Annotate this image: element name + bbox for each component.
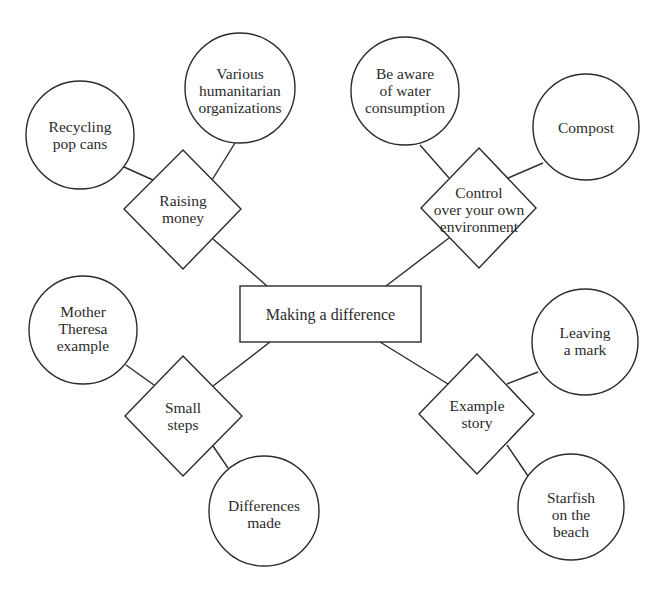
branch-diamond-raising-money (124, 150, 241, 269)
mind-map-diagram: Making a difference Raising money Contro… (0, 0, 667, 596)
connector-story-starfish (507, 445, 528, 476)
leaf-circle-starfish (518, 454, 624, 560)
leaf-circle-leaving (532, 289, 638, 395)
branch-diamond-example-story (419, 354, 534, 474)
center-node-box (240, 286, 421, 342)
connector-control-compost (508, 163, 543, 178)
leaf-circle-compost (533, 74, 639, 180)
connector-raising-humanitarian (212, 143, 235, 180)
connector-center-control-environment (386, 238, 449, 286)
leaf-circle-theresa (29, 276, 137, 384)
connector-center-small-steps (213, 342, 270, 386)
connector-control-water (420, 145, 449, 178)
diagram-canvas (0, 0, 667, 596)
leaf-circle-water (351, 37, 459, 145)
branch-diamond-small-steps (125, 356, 242, 476)
leaf-circle-recycling (26, 81, 134, 189)
connector-center-raising-money (213, 239, 267, 286)
connector-smallsteps-differences (213, 446, 228, 468)
connector-story-leaving (507, 372, 538, 384)
leaf-circle-humanitarian (185, 33, 295, 143)
leaf-circle-differences (209, 456, 319, 566)
connector-raising-recycling (124, 167, 153, 180)
connector-smallsteps-theresa (126, 365, 154, 385)
connector-center-example-story (380, 342, 448, 384)
